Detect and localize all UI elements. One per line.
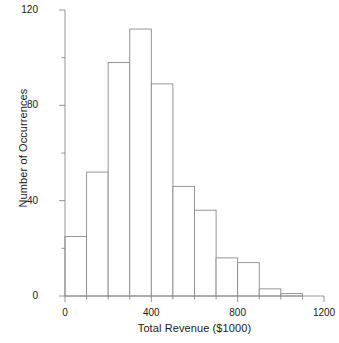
x-tick-label: 1200 (304, 308, 339, 318)
bar-series (65, 29, 302, 296)
histogram-bar (130, 29, 152, 296)
x-tick-label: 400 (131, 308, 171, 318)
histogram-bar (65, 236, 87, 296)
histogram-bar (87, 172, 109, 296)
histogram-bar (195, 210, 217, 296)
histogram-bar (151, 84, 173, 296)
x-axis-title: Total Revenue ($1000) (65, 322, 324, 334)
histogram-bar (173, 186, 195, 296)
histogram-bar (108, 62, 130, 296)
y-axis-title: Number of Occurrences (16, 0, 30, 296)
histogram-bar (238, 263, 260, 296)
plot-area (0, 0, 339, 343)
chart-svg (0, 0, 339, 343)
histogram-figure: 04080120 04008001200 Number of Occurrenc… (0, 0, 339, 343)
x-tick-label: 0 (45, 308, 85, 318)
histogram-bar (259, 289, 281, 296)
histogram-bar (216, 258, 238, 296)
x-tick-label: 800 (218, 308, 258, 318)
